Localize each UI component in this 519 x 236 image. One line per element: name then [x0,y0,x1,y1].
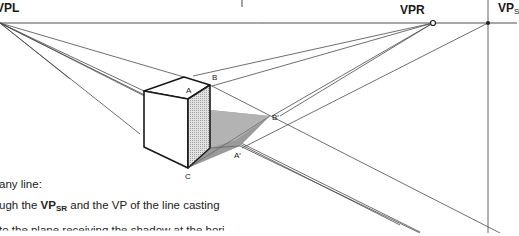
light-ray-a [240,146,420,233]
text-line-2-bold: VP [41,199,56,211]
vps-ray-line [242,23,488,148]
point-a-label: A [186,86,191,95]
point-c-label: C [185,172,191,181]
light-ray-b [210,85,500,233]
text-line-3: to the plane receiving the shadow at the… [0,224,225,236]
text-line-2-suffix: and the VP of the line casting [67,199,220,211]
vpr-point-icon [431,21,436,26]
vps-point-icon [486,21,490,25]
text-line-2-prefix: ugh the [0,199,41,211]
vps-label-sub: S [514,7,519,16]
vps-label-main: VP [498,1,514,15]
vpr-label: VPR [400,3,425,17]
text-line-2: ugh the VPSR and the VP of the line cast… [0,199,220,213]
vps-label: VPS [498,1,519,16]
text-line-1: any line: [0,178,42,190]
cube-left-face [144,91,188,168]
text-line-2-sub: SR [56,204,67,213]
point-b-label: B [212,73,217,82]
point-a-prime-label: A′ [234,151,241,160]
vpl-label: VPL [0,1,19,15]
point-b-prime-label: B′ [272,113,279,122]
